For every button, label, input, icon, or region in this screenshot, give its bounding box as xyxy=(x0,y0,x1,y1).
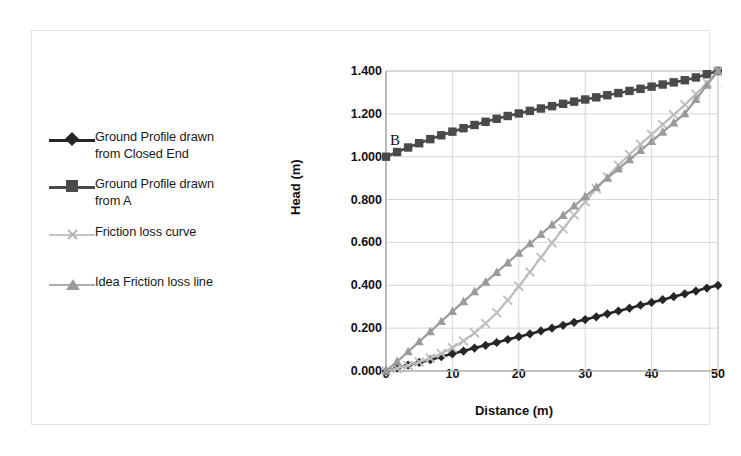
y-tick-label: 1.200 xyxy=(312,107,382,121)
x-axis-title: Distance (m) xyxy=(294,403,734,418)
legend-key-diamond xyxy=(49,131,95,149)
chart-canvas: BA xyxy=(382,65,722,375)
legend-item-ground-profile-from-a: Ground Profile drawn from A xyxy=(49,176,274,209)
y-axis-title: Head (m) xyxy=(288,159,303,215)
legend-key-x xyxy=(49,226,95,244)
triangle-marker-icon xyxy=(66,279,80,290)
y-tick-label: 0.200 xyxy=(312,321,382,335)
figure-frame: Ground Profile drawn from Closed End Gro… xyxy=(31,30,710,425)
legend-key-square xyxy=(49,178,95,196)
x-marker-icon xyxy=(65,227,80,242)
legend-label-line2: from A xyxy=(95,193,131,208)
legend-label-idea-friction-loss-line: Idea Friction loss line xyxy=(95,274,213,291)
legend-item-ground-profile-closed-end: Ground Profile drawn from Closed End xyxy=(49,129,274,162)
y-tick-label: 0.400 xyxy=(312,278,382,292)
annotation-point-b: B xyxy=(390,132,400,148)
legend-label-friction-loss-curve: Friction loss curve xyxy=(95,224,196,241)
legend-label-line2: from Closed End xyxy=(95,146,189,161)
legend-item-idea-friction-loss-line: Idea Friction loss line xyxy=(49,274,274,294)
legend-key-triangle xyxy=(49,276,95,294)
legend-label-ground-profile-closed-end: Ground Profile drawn from Closed End xyxy=(95,129,214,162)
legend-label-line1: Ground Profile drawn xyxy=(95,129,214,144)
y-tick-label: 1.000 xyxy=(312,150,382,164)
chart-legend: Ground Profile drawn from Closed End Gro… xyxy=(49,129,274,308)
y-tick-label: 0.600 xyxy=(312,235,382,249)
y-tick-label: 1.400 xyxy=(312,64,382,78)
y-tick-label: 0.800 xyxy=(312,193,382,207)
legend-label-line1: Ground Profile drawn xyxy=(95,176,214,191)
diamond-marker-icon xyxy=(65,132,79,146)
legend-label-ground-profile-from-a: Ground Profile drawn from A xyxy=(95,176,214,209)
legend-item-friction-loss-curve: Friction loss curve xyxy=(49,224,274,244)
square-marker-icon xyxy=(66,180,78,192)
annotation-point-a: A xyxy=(721,74,722,90)
plot-area: Head (m) Distance (m) 0.0000.2000.4000.6… xyxy=(294,65,734,425)
